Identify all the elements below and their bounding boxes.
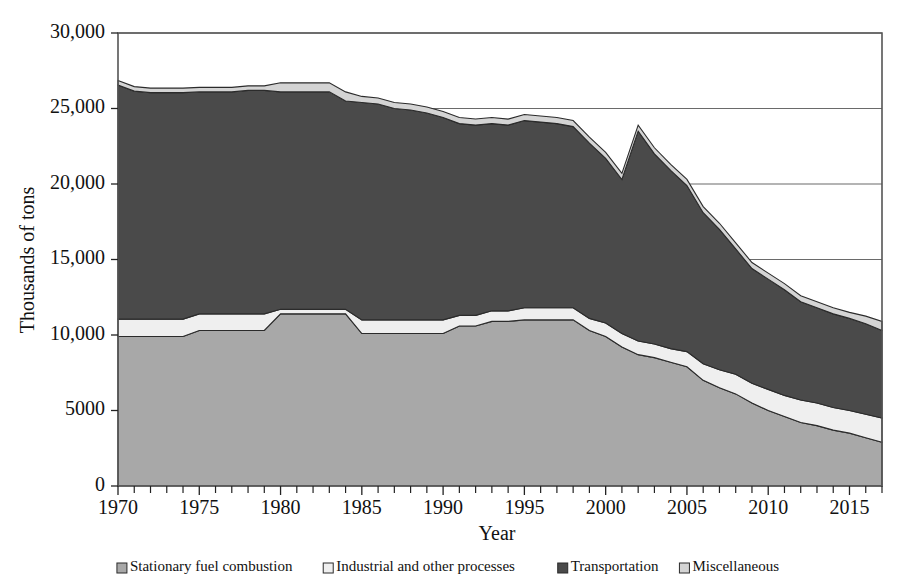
x-tick-label-1980: 1980: [261, 496, 301, 518]
x-axis-title: Year: [479, 522, 516, 544]
stacked-area-chart: 0500010,00015,00020,00025,00030,000 1970…: [0, 0, 909, 575]
legend-label-2: Transportation: [571, 558, 659, 574]
y-tick-label-5000: 5000: [65, 397, 105, 419]
y-tick-label-0: 0: [95, 473, 105, 495]
x-tick-label-2005: 2005: [667, 496, 707, 518]
y-tick-label-15000: 15,000: [50, 246, 105, 268]
legend-swatch-0: [117, 563, 127, 573]
x-tick-label-1975: 1975: [179, 496, 219, 518]
y-tick-label-25000: 25,000: [50, 95, 105, 117]
x-tick-label-1970: 1970: [98, 496, 138, 518]
legend-label-0: Stationary fuel combustion: [130, 558, 293, 574]
legend-swatch-1: [323, 563, 333, 573]
legend-swatch-2: [558, 563, 568, 573]
y-tick-label-30000: 30,000: [50, 20, 105, 42]
x-tick-label-1985: 1985: [342, 496, 382, 518]
x-tick-label-1990: 1990: [423, 496, 463, 518]
legend-label-3: Miscellaneous: [692, 558, 779, 574]
y-axis-title: Thousands of tons: [16, 186, 38, 333]
x-tick-label-2010: 2010: [748, 496, 788, 518]
legend-label-1: Industrial and other processes: [336, 558, 515, 574]
x-tick-label-2015: 2015: [829, 496, 869, 518]
x-tick-label-1995: 1995: [504, 496, 544, 518]
x-tick-label-2000: 2000: [586, 496, 626, 518]
y-tick-label-10000: 10,000: [50, 322, 105, 344]
legend-swatch-3: [679, 563, 689, 573]
y-tick-label-20000: 20,000: [50, 171, 105, 193]
